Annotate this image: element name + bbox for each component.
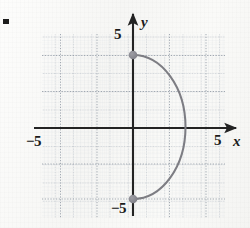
y-tick-label-5: 5 — [114, 26, 121, 43]
endpoint-dot-upper — [129, 51, 138, 60]
y-axis-label: y — [141, 14, 148, 31]
x-tick-label-minus5: −5 — [26, 133, 41, 150]
x-axis-label: x — [233, 133, 241, 150]
y-tick-label-minus5: −5 — [111, 200, 126, 217]
coordinate-plane-figure: y x 5 −5 −5 5 — [0, 0, 250, 228]
x-tick-label-5: 5 — [214, 132, 221, 149]
graph-canvas — [0, 0, 250, 228]
endpoint-dot-lower — [129, 195, 138, 204]
